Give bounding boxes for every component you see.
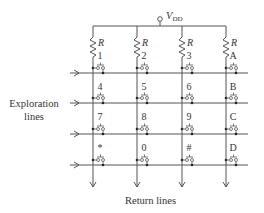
return-lines-label: Return lines (125, 195, 176, 206)
key-6: 6 (187, 82, 192, 92)
column-3 (179, 26, 185, 187)
key-7: 7 (98, 112, 103, 122)
key-2: 2 (142, 51, 147, 61)
switches (92, 63, 238, 167)
key-star: * (98, 143, 103, 153)
key-d: D (229, 143, 236, 153)
resistor-icon (134, 37, 140, 57)
resistor-icon (179, 37, 185, 57)
resistor-icon (223, 37, 229, 57)
resistor-label: R (142, 38, 148, 48)
key-b: B (230, 82, 237, 92)
column-4 (223, 26, 229, 187)
key-hash: # (187, 143, 192, 153)
exploration-lines-label: Exploration lines (2, 97, 66, 123)
key-a: A (229, 51, 236, 61)
key-0: 0 (142, 143, 147, 153)
resistor-label: R (231, 38, 237, 48)
key-5: 5 (142, 82, 147, 92)
key-1: 1 (98, 51, 103, 61)
key-c: C (230, 112, 237, 122)
key-9: 9 (187, 112, 192, 122)
key-8: 8 (142, 112, 147, 122)
resistor-label: R (98, 38, 104, 48)
resistor-label: R (187, 38, 193, 48)
resistor-icon (90, 37, 96, 57)
key-4: 4 (98, 82, 103, 92)
column-1 (90, 26, 96, 187)
vdd-terminal-icon (158, 17, 163, 22)
key-3: 3 (187, 51, 192, 61)
column-2 (134, 26, 140, 187)
vdd-label: VDD (166, 10, 183, 23)
